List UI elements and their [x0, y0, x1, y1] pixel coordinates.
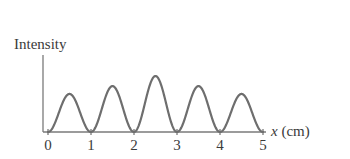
x-tick-label: 1	[83, 138, 99, 153]
y-axis-label: Intensity	[14, 37, 67, 52]
x-axis-variable: x	[271, 123, 278, 139]
x-tick-label: 5	[255, 138, 271, 153]
intensity-curve	[48, 76, 263, 132]
x-axis-unit: (cm)	[281, 123, 309, 139]
x-tick-label: 0	[40, 138, 56, 153]
x-tick-label: 2	[126, 138, 142, 153]
x-axis-label: x (cm)	[271, 124, 310, 139]
x-tick-label: 4	[212, 138, 228, 153]
x-tick-label: 3	[169, 138, 185, 153]
